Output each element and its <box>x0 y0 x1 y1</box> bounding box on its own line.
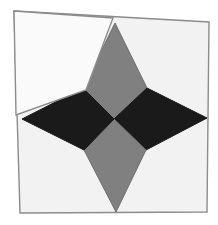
shape-layer <box>14 11 209 213</box>
figure-canvas <box>0 0 218 225</box>
star-figure-svg <box>0 0 218 225</box>
